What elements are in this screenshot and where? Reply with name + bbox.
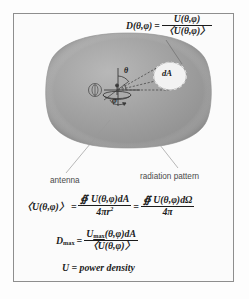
avg-equals-2: =	[133, 201, 139, 212]
dmax-numerator-rest: (θ,φ)dA	[105, 228, 136, 239]
directivity-fraction: U(θ,φ) 〈U(θ,φ)〉	[162, 14, 212, 36]
directivity-lhs: D(θ,φ)	[126, 20, 152, 31]
label-dA: dA	[162, 68, 172, 78]
avg-denominator-1-exponent: 2	[110, 206, 113, 212]
directivity-equals: =	[154, 20, 159, 31]
avg-denominator-1-base: 4πr	[96, 206, 110, 217]
directivity-denominator: 〈U(θ,φ)〉	[162, 25, 212, 37]
avg-equals: =	[71, 201, 77, 212]
avg-denominator-2: 4π	[141, 206, 195, 218]
equation-dmax: Dmax = Umax(θ,φ)dA 〈U(θ,φ)〉	[56, 229, 138, 252]
diagram-graphics	[0, 0, 249, 299]
equation-directivity: D(θ,φ) = U(θ,φ) 〈U(θ,φ)〉	[126, 14, 212, 36]
avg-denominator-1: 4πr2	[78, 205, 131, 218]
directivity-numerator: U(θ,φ)	[162, 14, 212, 25]
label-antenna: antenna	[50, 176, 80, 185]
label-radiation-pattern: radiation pattern	[140, 172, 199, 181]
label-theta: θ	[124, 66, 128, 75]
equation-average-power: 〈U(θ,φ)〉 = ∯ U(θ,φ)dA 4πr2 = ∯ U(θ,φ)dΩ …	[22, 194, 194, 218]
figure-container: D(θ,φ) = U(θ,φ) 〈U(θ,φ)〉 〈U(θ,φ)〉 = ∯ U(…	[0, 0, 249, 299]
avg-numerator-1: ∯ U(θ,φ)dA	[78, 194, 131, 205]
dmax-lhs-sub: max	[63, 239, 75, 246]
dmax-equals: =	[77, 235, 83, 246]
dmax-numerator-sub: max	[93, 232, 105, 239]
dmax-lhs: Dmax	[56, 235, 75, 246]
radiation-lobe-icon	[46, 33, 212, 148]
avg-lhs: 〈U(θ,φ)〉	[22, 199, 69, 213]
avg-fraction-2: ∯ U(θ,φ)dΩ 4π	[141, 195, 195, 218]
avg-fraction-1: ∯ U(θ,φ)dA 4πr2	[78, 194, 131, 218]
dmax-denominator: 〈U(θ,φ)〉	[84, 240, 138, 252]
dmax-fraction: Umax(θ,φ)dA 〈U(θ,φ)〉	[84, 229, 138, 252]
dmax-numerator: Umax(θ,φ)dA	[84, 229, 138, 240]
avg-numerator-2: ∯ U(θ,φ)dΩ	[141, 195, 195, 206]
label-phi: φ	[112, 96, 117, 105]
equation-definition: U = power density	[62, 262, 135, 273]
